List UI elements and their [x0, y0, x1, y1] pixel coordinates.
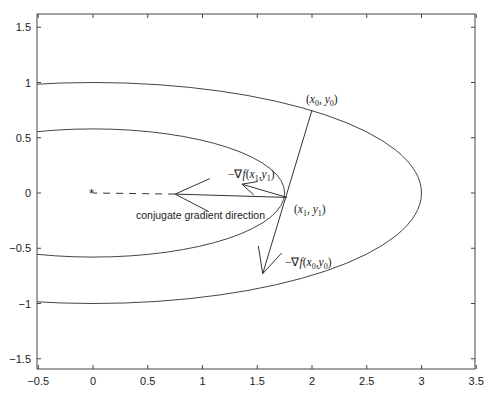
x-tick-label: 1: [199, 375, 205, 387]
conjugate-gradient-plot: −0.500.511.522.533.5 1.510.50−0.5−1−1.5 …: [0, 0, 495, 398]
y-tick-label: −0.5: [9, 242, 31, 254]
dashed-extension: [93, 193, 175, 194]
conjugate-direction-label: conjugate gradient direction: [136, 209, 265, 221]
y-tick-label: −1: [18, 298, 31, 310]
inner-ellipse: [0, 129, 285, 257]
y-tick-label: 0.5: [16, 132, 31, 144]
y-tick-label: −1.5: [9, 353, 31, 365]
contours: [0, 83, 422, 304]
minimum-marker: *: [89, 186, 94, 201]
x-tick-label: 0.5: [140, 375, 155, 387]
x0-label: (x0, y0): [306, 93, 338, 108]
y-tick-label: 1.5: [16, 21, 31, 33]
conjugate-direction-arrow: [175, 194, 287, 197]
x1-label: (x1, y1): [294, 203, 326, 218]
x-tick-label: 3.5: [469, 375, 484, 387]
x-tick-label: 3: [418, 375, 424, 387]
y-axis: 1.510.50−0.5−1−1.5: [9, 21, 475, 365]
x-tick-label: 1.5: [250, 375, 265, 387]
grad-x0-arrow-head: [258, 246, 262, 274]
grad-x0-arrow: [263, 110, 312, 274]
x-tick-label: −0.5: [27, 375, 49, 387]
x-tick-label: 2.5: [359, 375, 374, 387]
x-tick-label: 2: [309, 375, 315, 387]
y-tick-label: 0: [25, 187, 31, 199]
plot-frame: [37, 14, 475, 369]
x-tick-label: 0: [90, 375, 96, 387]
vectors: [93, 110, 312, 274]
grad-x0-label: −∇f(x0,y0): [285, 256, 332, 271]
grad-x1-label: −∇f(x1,y1): [228, 168, 275, 183]
conjugate-direction-arrow-head: [175, 179, 210, 195]
outer-ellipse: [0, 83, 422, 304]
y-tick-label: 1: [25, 77, 31, 89]
x-axis: −0.500.511.522.533.5: [27, 14, 484, 387]
